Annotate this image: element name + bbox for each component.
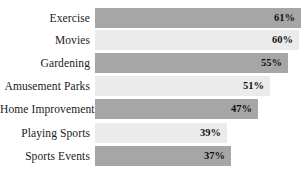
- chart-row: Playing Sports 39%: [0, 123, 306, 143]
- category-label: Home Improvement: [0, 99, 90, 119]
- category-label: Sports Events: [0, 146, 90, 166]
- category-label: Exercise: [0, 8, 90, 28]
- category-label: Playing Sports: [0, 123, 90, 143]
- bar-value-label: 60%: [263, 30, 293, 50]
- bar-value-label: 51%: [234, 76, 264, 96]
- bar-value-label: 37%: [195, 146, 225, 166]
- bar-value-label: 61%: [265, 8, 295, 28]
- chart-row: Exercise 61%: [0, 8, 306, 28]
- category-label: Amusement Parks: [0, 76, 90, 96]
- chart-row: Amusement Parks 51%: [0, 76, 306, 96]
- chart-row: Movies 60%: [0, 30, 306, 50]
- category-label: Gardening: [0, 53, 90, 73]
- bar-value-label: 55%: [252, 53, 282, 73]
- chart-row: Home Improvement 47%: [0, 99, 306, 119]
- bar-value-label: 39%: [191, 123, 221, 143]
- plot-area: Exercise 61% Movies 60% Gardening 55% Am…: [0, 0, 306, 170]
- bar-value-label: 47%: [222, 99, 252, 119]
- chart-row: Sports Events 37%: [0, 146, 306, 166]
- chart-row: Gardening 55%: [0, 53, 306, 73]
- category-label: Movies: [0, 30, 90, 50]
- bar-chart: Exercise 61% Movies 60% Gardening 55% Am…: [0, 0, 306, 170]
